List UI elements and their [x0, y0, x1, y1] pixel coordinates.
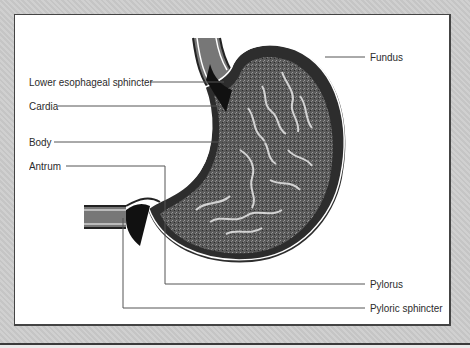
label-pylorus: Pylorus	[370, 278, 403, 290]
label-cardia: Cardia	[29, 100, 58, 112]
label-antrum: Antrum	[29, 160, 61, 172]
label-lower-esophageal-sphincter: Lower esophageal sphincter	[29, 76, 153, 88]
label-fundus: Fundus	[370, 51, 403, 63]
duodenum	[84, 206, 126, 228]
label-pyloric-sphincter: Pyloric sphincter	[370, 302, 443, 314]
stomach	[148, 45, 346, 263]
pyloric-region	[126, 204, 150, 246]
label-body: Body	[29, 136, 52, 148]
